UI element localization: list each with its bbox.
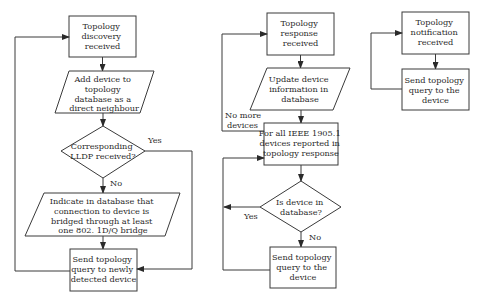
in-db-yes-label: Yes	[243, 211, 258, 221]
for-all-devices-text: For all IEEE 1905.1 devices reported in …	[259, 128, 343, 158]
topology-discovery-text: Topology discovery received	[81, 21, 123, 51]
in-db-no-label: No	[309, 232, 321, 242]
in-database-decision-text: Is device in database?	[276, 197, 326, 217]
arrow-send-loop-to-notification	[371, 33, 402, 89]
lldp-decision-text: Corresponding LLDP received?	[70, 141, 135, 161]
lldp-no-label: No	[110, 178, 122, 188]
topology-response-text: Topology response received	[280, 18, 320, 48]
lldp-yes-label: Yes	[147, 135, 162, 145]
add-device-text: Add device to topology database as a dir…	[69, 74, 139, 113]
flow-topology-discovery: Topology discovery received Add device t…	[15, 16, 192, 291]
flow-topology-response: Topology response received Update device…	[222, 13, 350, 288]
no-more-devices-label: No more devices	[225, 110, 264, 130]
send-query-new-text: Send topology query to newly detected de…	[71, 254, 137, 284]
flowchart-diagram: Topology discovery received Add device t…	[0, 0, 479, 307]
indicate-bridged-text: Indicate in database that connection to …	[50, 196, 156, 235]
flow-topology-notification: Topology notification received Send topo…	[371, 12, 469, 110]
topology-notification-text: Topology notification received	[411, 17, 461, 47]
